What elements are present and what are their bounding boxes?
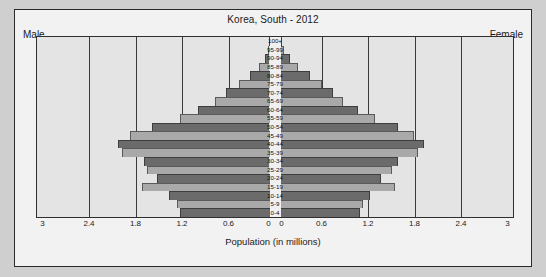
- population-pyramid-plot: 100+95-9990-9485-8980-8475-7970-7465-696…: [36, 36, 514, 218]
- female-bar: [281, 148, 419, 157]
- female-bar: [281, 166, 393, 175]
- female-bar: [281, 183, 396, 192]
- female-bar: [281, 131, 414, 140]
- female-bar: [281, 88, 334, 97]
- female-bar: [281, 97, 343, 106]
- male-bar: [180, 114, 269, 123]
- x-tick-label: 1.8: [130, 219, 141, 228]
- female-bar: [281, 71, 310, 80]
- female-bar: [281, 114, 376, 123]
- female-bar: [281, 174, 382, 183]
- male-bar: [215, 97, 269, 106]
- x-tick-label: 1.2: [362, 219, 373, 228]
- male-bar: [152, 123, 270, 132]
- x-tick-label: 0: [279, 219, 283, 228]
- male-bar: [180, 208, 269, 217]
- female-bar: [281, 123, 399, 132]
- male-bar: [142, 183, 270, 192]
- x-tick-label: 3: [40, 219, 44, 228]
- male-bar: [118, 140, 270, 149]
- male-bar: [226, 88, 269, 97]
- male-bar: [122, 148, 269, 157]
- x-axis-ticks: 32.41.81.20.6000.61.21.82.43: [36, 219, 514, 233]
- female-bar: [281, 140, 424, 149]
- female-bar: [281, 157, 399, 166]
- female-bar: [281, 80, 323, 89]
- x-tick-label: 0: [266, 219, 270, 228]
- x-tick-label: 1.8: [409, 219, 420, 228]
- chart-panel: Korea, South - 2012 Male Female 100+95-9…: [14, 9, 532, 267]
- female-bar: [281, 191, 371, 200]
- x-tick-label: 0.6: [223, 219, 234, 228]
- male-bar: [144, 157, 270, 166]
- female-bar: [281, 106, 359, 115]
- x-axis-title: Population (in millions): [15, 236, 531, 247]
- female-bar: [281, 208, 360, 217]
- x-tick-label: 0.6: [316, 219, 327, 228]
- female-bar: [281, 63, 299, 72]
- female-bar: [281, 37, 282, 46]
- x-tick-label: 3: [505, 219, 509, 228]
- female-bar: [281, 54, 290, 63]
- male-bar: [259, 63, 269, 72]
- male-bar: [198, 106, 269, 115]
- male-bar: [169, 191, 270, 200]
- male-bar: [130, 131, 270, 140]
- x-tick-label: 2.4: [455, 219, 466, 228]
- x-tick-label: 1.2: [176, 219, 187, 228]
- female-bar: [281, 200, 363, 209]
- male-bar: [177, 200, 270, 209]
- male-bar: [239, 80, 270, 89]
- chart-title: Korea, South - 2012: [15, 14, 531, 25]
- male-bar: [147, 166, 269, 175]
- male-bar: [250, 71, 269, 80]
- male-bar: [157, 174, 269, 183]
- female-bar: [281, 46, 285, 55]
- center-age-axis-band: [270, 37, 281, 217]
- x-tick-label: 2.4: [83, 219, 94, 228]
